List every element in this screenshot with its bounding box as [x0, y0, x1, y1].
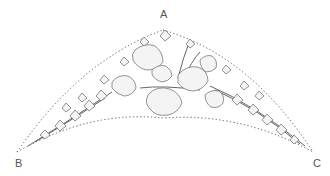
leaf-icon — [240, 81, 249, 90]
leaf-icon — [78, 93, 87, 102]
leaf-icon — [62, 103, 71, 112]
diagram-canvas — [0, 0, 330, 176]
leaf-icon — [152, 66, 172, 83]
leaf-icon — [146, 88, 182, 116]
point-label-c: C — [313, 158, 321, 169]
leaf-icon — [96, 90, 107, 101]
leaf-icon — [120, 57, 129, 66]
outline-right-edge — [163, 30, 313, 152]
leaf-icon — [100, 75, 109, 84]
leaf-icon — [160, 30, 171, 41]
leaf-icon — [255, 91, 264, 100]
ivy-arrangement-diagram: A B C — [0, 0, 330, 176]
leaf-icon — [248, 104, 259, 115]
point-label-b: B — [15, 158, 22, 169]
leaf-icon — [205, 91, 224, 108]
point-label-a: A — [160, 9, 167, 20]
leaf-icon — [222, 65, 231, 74]
leaf-icon — [276, 124, 287, 135]
leaf-icon — [112, 76, 136, 96]
